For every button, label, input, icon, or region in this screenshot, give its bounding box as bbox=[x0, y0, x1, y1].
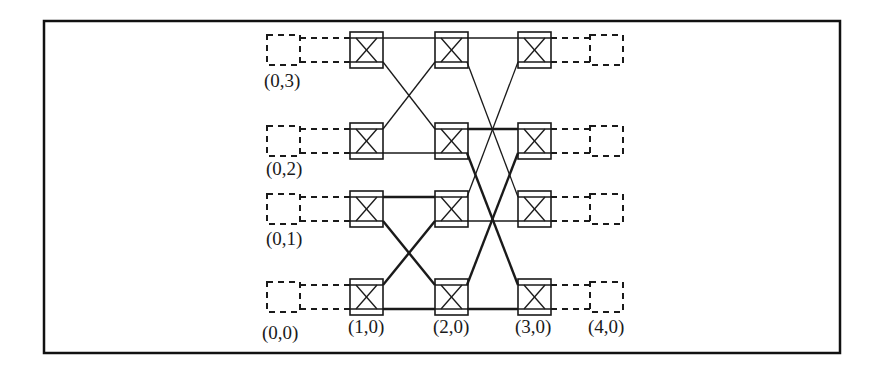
endpoint-node-0-0 bbox=[267, 282, 300, 312]
switch-2-1 bbox=[435, 191, 468, 227]
endpoint-node-0-1 bbox=[267, 194, 300, 224]
diagram-frame bbox=[44, 21, 840, 353]
label-1-0: (1,0) bbox=[348, 316, 384, 338]
endpoint-node-0-3 bbox=[267, 35, 300, 65]
switch-3-0 bbox=[518, 279, 551, 315]
label-0-3: (0,3) bbox=[264, 70, 300, 92]
switch-2-2 bbox=[435, 123, 468, 159]
switch-2-0 bbox=[435, 279, 468, 315]
label-0-0: (0,0) bbox=[262, 322, 298, 344]
wires-stage-2 bbox=[467, 38, 518, 309]
switch-3-2 bbox=[518, 123, 551, 159]
endpoint-node-4-1 bbox=[590, 194, 623, 224]
endpoint-node-0-2 bbox=[267, 126, 300, 156]
switch-1-0 bbox=[350, 279, 383, 315]
endpoint-node-4-0 bbox=[590, 282, 623, 312]
label-2-0: (2,0) bbox=[433, 316, 469, 338]
endpoint-node-4-3 bbox=[590, 35, 623, 65]
label-0-2: (0,2) bbox=[266, 158, 302, 180]
switch-3-1 bbox=[518, 191, 551, 227]
label-3-0: (3,0) bbox=[515, 316, 551, 338]
label-0-1: (0,1) bbox=[266, 228, 302, 250]
wires-stage-1 bbox=[383, 38, 435, 309]
left-dashed-links bbox=[300, 38, 350, 309]
switch-1-2 bbox=[350, 123, 383, 159]
endpoint-node-4-2 bbox=[590, 126, 623, 156]
switch-3-3 bbox=[518, 32, 551, 68]
label-4-0: (4,0) bbox=[588, 316, 624, 338]
switch-1-1 bbox=[350, 191, 383, 227]
right-dashed-links bbox=[551, 38, 590, 309]
switch-2-3 bbox=[435, 32, 468, 68]
butterfly-network-diagram: (0,3) (0,2) (0,1) (0,0) (1,0) (2,0) (3,0… bbox=[0, 0, 881, 370]
switch-1-3 bbox=[350, 32, 383, 68]
